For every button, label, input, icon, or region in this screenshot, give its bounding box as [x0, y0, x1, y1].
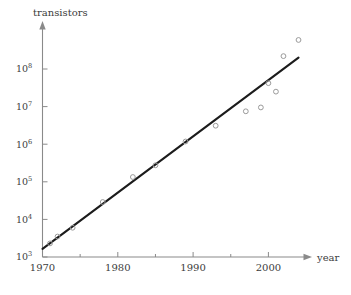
x-tick-group — [43, 252, 269, 257]
chart-container: 103104105106107108 1970198019902000 tran… — [0, 0, 351, 295]
y-tick-label-group: 103104105106107108 — [16, 62, 32, 262]
x-tick-label: 1970 — [30, 262, 55, 273]
y-tick-label: 107 — [16, 100, 32, 112]
data-point — [266, 81, 271, 86]
y-tick-label: 103 — [16, 250, 32, 262]
data-point — [274, 89, 279, 94]
moores-law-scatter-chart: 103104105106107108 1970198019902000 tran… — [0, 0, 351, 295]
y-axis-arrowhead — [39, 21, 45, 30]
trend-line-group — [43, 58, 299, 249]
trend-line — [43, 58, 299, 249]
y-axis — [39, 21, 45, 257]
y-tick-label: 106 — [16, 138, 32, 150]
x-tick-label-group: 1970198019902000 — [30, 262, 281, 273]
y-tick-label: 105 — [16, 175, 32, 187]
x-axis-label: year — [316, 252, 340, 263]
data-point — [258, 105, 263, 110]
y-axis-label: transistors — [33, 7, 88, 18]
x-axis — [43, 254, 313, 260]
data-point — [213, 123, 218, 128]
x-axis-arrowhead — [304, 254, 313, 260]
data-point-group — [48, 38, 301, 246]
data-point — [243, 109, 248, 114]
x-tick-label: 2000 — [256, 262, 281, 273]
y-tick-group — [43, 69, 48, 257]
data-point — [281, 54, 286, 59]
x-tick-label: 1980 — [105, 262, 130, 273]
data-point — [296, 38, 301, 43]
data-point — [130, 175, 135, 180]
y-tick-label: 104 — [16, 213, 32, 225]
x-tick-label: 1990 — [180, 262, 205, 273]
y-tick-label: 108 — [16, 62, 32, 74]
